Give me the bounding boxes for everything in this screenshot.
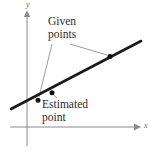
y-axis-group [24,11,30,147]
y-axis-label: y [26,1,30,9]
estimated-point-callout: Estimated point [42,98,88,124]
given-points-leader-right [70,44,107,55]
given-point-right [108,54,113,59]
given-points-callout-line2: points [48,28,76,41]
x-axis-label: x [144,122,148,130]
given-points-callout-line1: Given [48,15,76,27]
x-axis-group [10,124,141,131]
y-axis-arrowhead [24,11,30,18]
estimated-point-marker [50,90,55,95]
given-point-left [36,98,41,103]
estimated-point-callout-line1: Estimated [42,98,88,110]
interpolation-figure: y x Given points Estimated point [0,0,162,154]
given-points-callout: Given points [48,15,76,41]
figure-canvas [0,0,162,154]
estimated-point-callout-line2: point [42,111,88,124]
x-axis-arrowhead [134,124,141,131]
